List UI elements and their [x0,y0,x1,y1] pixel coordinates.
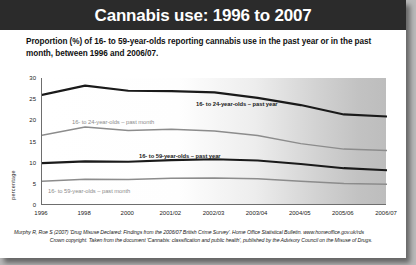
series-label-16-24-past-year: 16- to 24-year-olds – past year [196,101,278,107]
series-label-16-59-past-year: 16- to 59-year-olds – past year [139,153,221,159]
series-line-1 [42,127,387,150]
series-label-16-59-past-month: 16- to 59-year-olds – past month [48,188,130,194]
y-tick-5: 5 [20,181,36,187]
series-label-16-24-past-month: 16- to 24-year-olds – past month [72,119,154,125]
series-line-3 [42,178,387,184]
footnote: Murphy R, Roe S (2007) 'Drug Misuse Decl… [14,228,394,245]
series-line-2 [42,159,387,170]
page-title: Cannabis use: 1996 to 2007 [0,0,406,30]
y-tick-20: 20 [20,117,36,123]
y-tick-30: 30 [20,75,36,81]
series-lines [42,78,387,205]
y-tick-10: 10 [20,160,36,166]
y-tick-15: 15 [20,139,36,145]
plot-wrapper: percentage 051015202530 1996199820002001… [0,70,406,225]
plot-area [41,78,386,205]
chart-card: Cannabis use: 1996 to 2007 Proportion (%… [0,0,406,258]
footnote-line-1: Murphy R, Roe S (2007) 'Drug Misuse Decl… [14,228,394,236]
chart-subtitle: Proportion (%) of 16- to 59-year-olds re… [26,36,386,59]
y-tick-0: 0 [20,202,36,208]
y-tick-25: 25 [20,96,36,102]
footnote-line-2: Crown copyright. Taken from the document… [14,236,394,244]
x-tick-2006-07: 2006/07 [356,210,416,216]
